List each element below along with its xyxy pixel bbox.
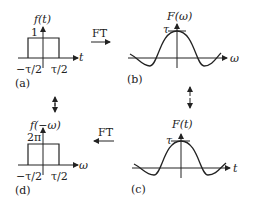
caption: (a) <box>15 77 30 90</box>
axis-label: ω <box>79 159 88 172</box>
func-label: F(t) <box>171 118 193 131</box>
left-tick: −τ/2 <box>16 170 42 183</box>
axis-label: t <box>79 51 84 64</box>
ft-arrow-top: FT <box>91 27 110 42</box>
left-tick: −τ/2 <box>16 63 42 76</box>
axis-label: ω <box>230 52 239 65</box>
func-label: f(t) <box>33 13 51 26</box>
caption: (c) <box>131 183 146 196</box>
ft-arrow-bottom: FT <box>94 126 114 141</box>
right-tick: τ/2 <box>51 63 68 76</box>
ft-label: FT <box>98 126 114 139</box>
caption: (d) <box>15 184 31 197</box>
panel-b: F(ω) τ ω (b) <box>127 10 239 86</box>
peak-label: τ <box>163 23 170 36</box>
axis-label: t <box>233 162 238 175</box>
caption: (b) <box>127 73 143 86</box>
panel-a: f(t) 1 t −τ/2 τ/2 (a) <box>15 13 84 90</box>
fourier-duality-diagram: f(t) 1 t −τ/2 τ/2 (a) FT F(ω) τ ω (b) f(… <box>0 0 253 202</box>
right-tick: τ/2 <box>51 170 68 183</box>
peak-label: τ <box>166 134 173 147</box>
height-label: 2π <box>27 131 41 144</box>
panel-c: F(t) τ t (c) <box>131 118 238 196</box>
height-label: 1 <box>31 26 38 39</box>
ft-label: FT <box>92 27 108 40</box>
func-label: F(ω) <box>166 10 192 23</box>
panel-d: f(−ω) 2π ω −τ/2 τ/2 (d) <box>15 119 88 197</box>
